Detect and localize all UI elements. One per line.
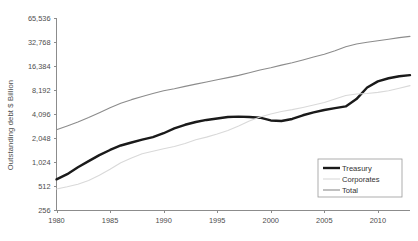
chart-legend: TreasuryCorporatesTotal xyxy=(318,159,402,197)
y-axis-ticks: 2565121,0242,0484,0968,19216,38432,76865… xyxy=(28,14,57,215)
x-tick-label: 2000 xyxy=(263,216,279,225)
y-tick-label: 65,536 xyxy=(28,14,51,23)
x-tick-label: 2010 xyxy=(370,216,386,225)
x-tick-label: 1995 xyxy=(209,216,225,225)
y-tick-label: 256 xyxy=(38,206,50,215)
legend-label-treasury[interactable]: Treasury xyxy=(342,164,372,173)
y-tick-label: 2,048 xyxy=(32,134,51,143)
legend-label-total[interactable]: Total xyxy=(342,186,358,195)
chart-figure: Outstanding debt $ Billion 2565121,0242,… xyxy=(0,0,418,241)
y-tick-label: 1,024 xyxy=(32,158,51,167)
y-tick-label: 32,768 xyxy=(28,38,51,47)
x-tick-label: 1990 xyxy=(155,216,171,225)
y-axis-label: Outstanding debt $ Billion xyxy=(6,80,15,170)
x-tick-label: 1980 xyxy=(48,216,64,225)
y-tick-label: 4,096 xyxy=(32,110,51,119)
x-tick-label: 1985 xyxy=(102,216,118,225)
x-tick-label: 2005 xyxy=(316,216,332,225)
line-chart-canvas: Outstanding debt $ Billion 2565121,0242,… xyxy=(0,0,418,241)
y-tick-label: 16,384 xyxy=(28,62,51,71)
y-tick-label: 8,192 xyxy=(32,86,51,95)
y-tick-label: 512 xyxy=(38,182,50,191)
legend-label-corporates[interactable]: Corporates xyxy=(342,175,380,184)
y-axis-label-group: Outstanding debt $ Billion xyxy=(6,80,15,170)
x-axis-ticks: 1980198519901995200020052010 xyxy=(48,210,386,225)
